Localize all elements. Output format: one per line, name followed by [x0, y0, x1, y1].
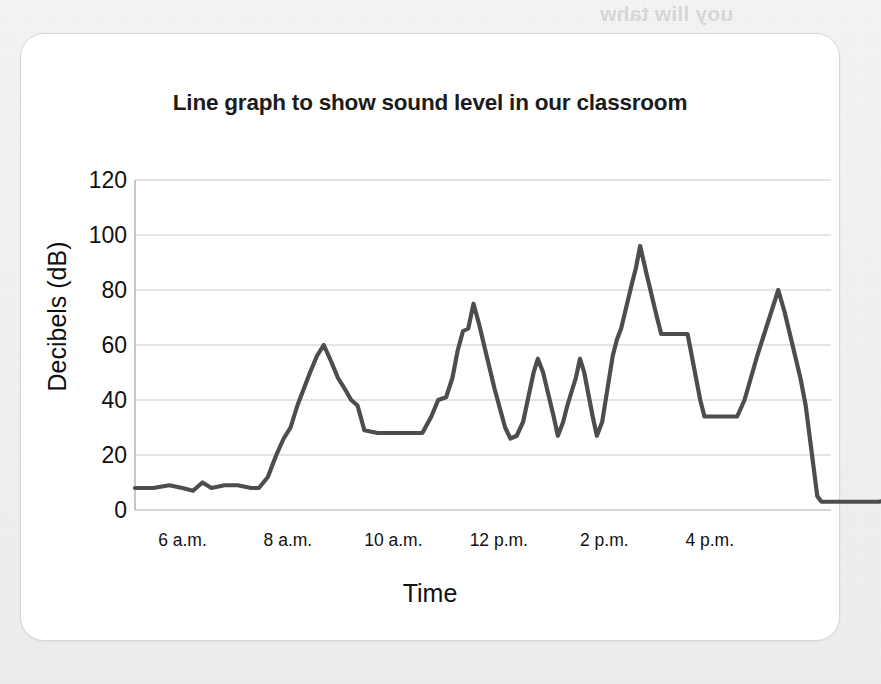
y-tick-label: 80: [69, 279, 127, 302]
x-axis-title: Time: [21, 579, 839, 608]
x-tick-label: 10 a.m.: [364, 530, 422, 551]
y-axis-tick-labels: 020406080100120: [63, 180, 127, 510]
y-tick-label: 60: [69, 334, 127, 357]
chart-title: Line graph to show sound level in our cl…: [21, 90, 839, 116]
x-tick-label: 6 a.m.: [158, 530, 207, 551]
x-tick-label: 12 p.m.: [470, 530, 528, 551]
y-tick-label: 0: [69, 499, 127, 522]
bleed-through-text: uoy lliw tahw: [600, 2, 860, 26]
y-tick-label: 100: [69, 224, 127, 247]
line-chart-svg: [135, 180, 831, 510]
data-line: [135, 246, 881, 502]
y-tick-label: 120: [69, 169, 127, 192]
plot-area: [135, 180, 831, 510]
data-series-group: [135, 246, 881, 502]
x-tick-label: 4 p.m.: [685, 530, 734, 551]
x-tick-label: 8 a.m.: [264, 530, 313, 551]
x-tick-label: 2 p.m.: [580, 530, 629, 551]
y-tick-label: 20: [69, 444, 127, 467]
x-axis-tick-labels: 6 a.m.8 a.m.10 a.m.12 p.m.2 p.m.4 p.m.: [135, 530, 831, 560]
y-tick-label: 40: [69, 389, 127, 412]
chart-card: Line graph to show sound level in our cl…: [20, 33, 840, 641]
